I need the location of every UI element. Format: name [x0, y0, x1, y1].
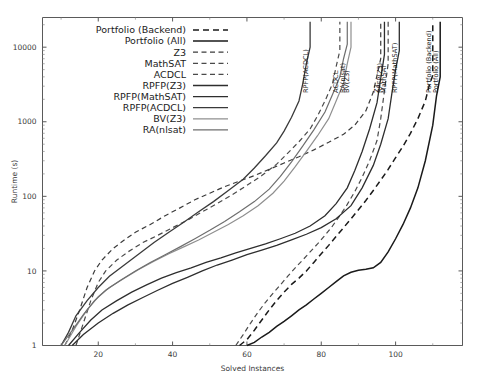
legend-label: Portfolio (All) [125, 35, 186, 46]
annotation-label: RPFP(Z3) [376, 63, 384, 93]
x-tick-label: 20 [93, 350, 103, 359]
legend-label: BV(Z3) [153, 113, 186, 124]
x-tick-label: 60 [242, 350, 252, 359]
chart-root: 110100100010000 20406080100 RPFP(ACDCL)A… [0, 0, 481, 381]
annotation-label: RPFP(ACDCL) [302, 49, 310, 93]
legend-label: RPFP(ACDCL) [123, 102, 186, 113]
y-tick-label: 10 [27, 267, 37, 276]
x-tick-label: 80 [316, 350, 326, 359]
y-axis-title: Runtime (s) [10, 160, 19, 204]
legend-label: Portfolio (Backend) [96, 24, 186, 35]
x-tick-label: 100 [388, 350, 403, 359]
x-tick-label: 40 [168, 350, 178, 359]
x-axis-title: Solved Instances [221, 364, 285, 373]
y-tick-label: 10000 [13, 43, 37, 52]
y-tick-label: 1000 [17, 117, 36, 126]
y-tick-label: 100 [22, 192, 37, 201]
legend-label: RA(nlsat) [143, 124, 186, 135]
legend-label: Z3 [173, 47, 186, 58]
y-tick-label: 1 [32, 341, 37, 350]
annotation-label: Portfolio (All) [432, 50, 440, 93]
cactus-plot: 110100100010000 20406080100 RPFP(ACDCL)A… [0, 0, 481, 381]
legend-label: MathSAT [144, 58, 186, 69]
legend-label: RPFP(MathSAT) [114, 91, 186, 102]
legend-label: RPFP(Z3) [143, 80, 187, 91]
legend-label: ACDCL [154, 69, 187, 80]
annotation-label: BV(Z3) [343, 70, 351, 93]
annotation-label: RPFP(MathSAT) [391, 43, 399, 93]
